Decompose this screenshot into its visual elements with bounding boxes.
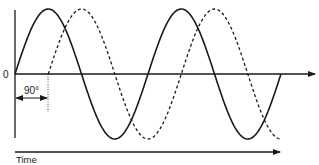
zero-label: 0 [3, 69, 9, 80]
phase-shift-diagram: 90° 0 Time [0, 0, 319, 165]
time-label: Time [16, 154, 37, 165]
phase-shift-label: 90° [24, 85, 39, 96]
